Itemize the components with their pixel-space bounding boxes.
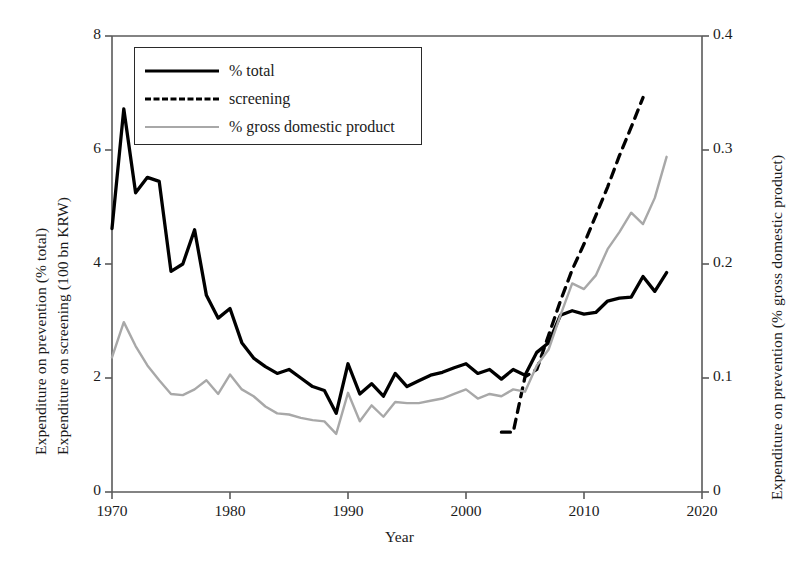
y-tick-left-0: 0 (61, 481, 101, 499)
legend-item-1[interactable]: screening (145, 85, 290, 113)
y-tick-right-0: 0 (713, 481, 763, 499)
y-tick-right-0.2: 0.2 (713, 253, 763, 271)
data-series (112, 98, 667, 434)
x-tick-1990: 1990 (313, 502, 383, 520)
x-tick-2000: 2000 (431, 502, 501, 520)
y-axis-right-title: Expenditure on prevention (% gross domes… (766, 155, 788, 500)
x-tick-2020: 2020 (667, 502, 737, 520)
y-tick-right-0.1: 0.1 (713, 367, 763, 385)
x-axis-title: Year (0, 528, 799, 546)
chart-figure: 02468 00.10.20.30.4 19701980199020002010… (0, 0, 799, 564)
legend-swatch-dashed-icon (145, 92, 219, 106)
y-axis-left-title: Expenditure on prevention (% total) Expe… (30, 197, 74, 455)
legend-swatch-solid-icon (145, 64, 219, 78)
x-tick-1980: 1980 (195, 502, 265, 520)
y-tick-left-8: 8 (61, 25, 101, 43)
chart-legend: % totalscreening% gross domestic product (134, 47, 422, 145)
y-axis-left-title-line2: Expenditure on screening (100 bn KRW) (52, 197, 74, 455)
legend-label-2: % gross domestic product (229, 118, 395, 136)
legend-label-1: screening (229, 90, 290, 108)
y-tick-right-0.3: 0.3 (713, 139, 763, 157)
x-tick-2010: 2010 (549, 502, 619, 520)
legend-item-2[interactable]: % gross domestic product (145, 113, 395, 141)
legend-label-0: % total (229, 62, 275, 80)
legend-item-0[interactable]: % total (145, 57, 275, 85)
y-tick-left-6: 6 (61, 139, 101, 157)
legend-swatch-gray-icon (145, 120, 219, 134)
x-tick-1970: 1970 (77, 502, 147, 520)
y-axis-left-title-line1: Expenditure on prevention (% total) (30, 197, 52, 455)
series-line-1 (501, 98, 643, 433)
y-tick-right-0.4: 0.4 (713, 25, 763, 43)
series-line-2 (112, 157, 667, 434)
series-line-0 (112, 109, 667, 413)
